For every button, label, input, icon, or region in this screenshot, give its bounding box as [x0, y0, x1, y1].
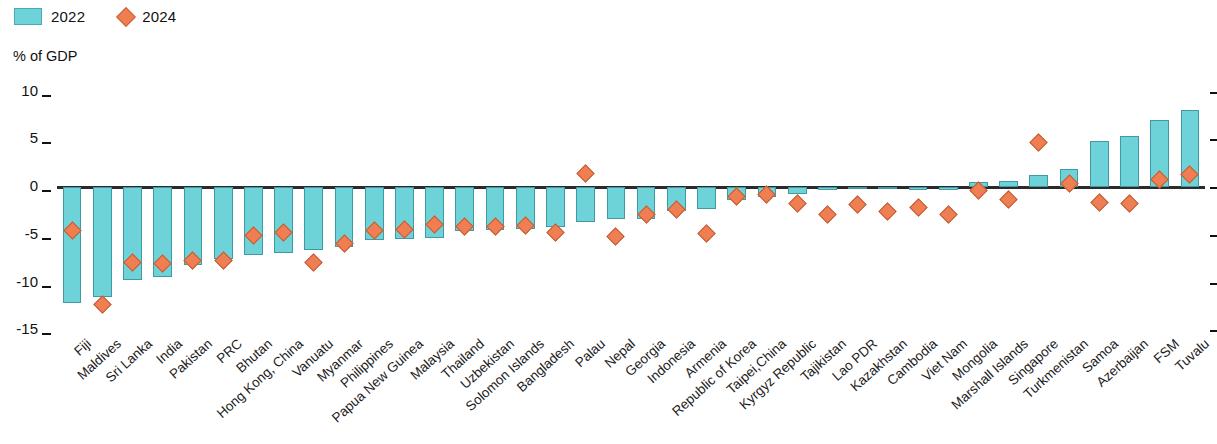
data-point-marker [879, 203, 897, 221]
bar [93, 187, 112, 297]
y-tick-label: -10 [0, 273, 38, 290]
data-point-marker [576, 164, 594, 182]
y-tick-mark-right [1210, 139, 1217, 141]
y-tick-label: -15 [0, 320, 38, 337]
data-point-marker [1030, 133, 1048, 151]
y-tick-mark [42, 238, 51, 240]
y-tick-mark-right [1210, 92, 1217, 94]
y-tick-label: 5 [0, 129, 38, 146]
y-tick-label: 10 [0, 82, 38, 99]
y-tick-mark [42, 190, 51, 192]
data-point-marker [788, 194, 806, 212]
bar [576, 187, 595, 222]
bar [607, 187, 626, 219]
bar [1029, 175, 1048, 187]
bar [878, 187, 897, 189]
y-tick-mark [42, 142, 51, 144]
data-point-marker [909, 198, 927, 216]
y-tick-label: 0 [0, 177, 38, 194]
data-point-marker [697, 225, 715, 243]
y-tick-mark-right [1210, 187, 1217, 189]
bar [909, 187, 928, 190]
bar [1120, 136, 1139, 187]
data-point-marker [1120, 194, 1138, 212]
data-point-marker [607, 227, 625, 245]
y-tick-mark-right [1210, 330, 1217, 332]
data-point-marker [999, 190, 1017, 208]
bar [848, 187, 867, 189]
bar [274, 187, 293, 253]
bar [788, 187, 807, 194]
bar [1090, 141, 1109, 187]
y-tick-label: -5 [0, 225, 38, 242]
bar [63, 187, 82, 303]
chart-plot-area: 1050-5-10-15 [0, 0, 1217, 444]
y-tick-mark-right [1210, 235, 1217, 237]
bar [939, 187, 958, 190]
data-point-marker [939, 205, 957, 223]
bar [214, 187, 233, 259]
bar [304, 187, 323, 250]
data-point-marker [848, 195, 866, 213]
bar [697, 187, 716, 209]
y-tick-mark [42, 286, 51, 288]
y-tick-mark [42, 333, 51, 335]
data-point-marker [1090, 193, 1108, 211]
y-tick-mark-right [1210, 283, 1217, 285]
bar [546, 187, 565, 227]
y-tick-mark [42, 95, 51, 97]
data-point-marker [818, 205, 836, 223]
data-point-marker [305, 253, 323, 271]
bar [999, 181, 1018, 187]
data-point-marker [93, 295, 111, 313]
bar [818, 187, 837, 190]
